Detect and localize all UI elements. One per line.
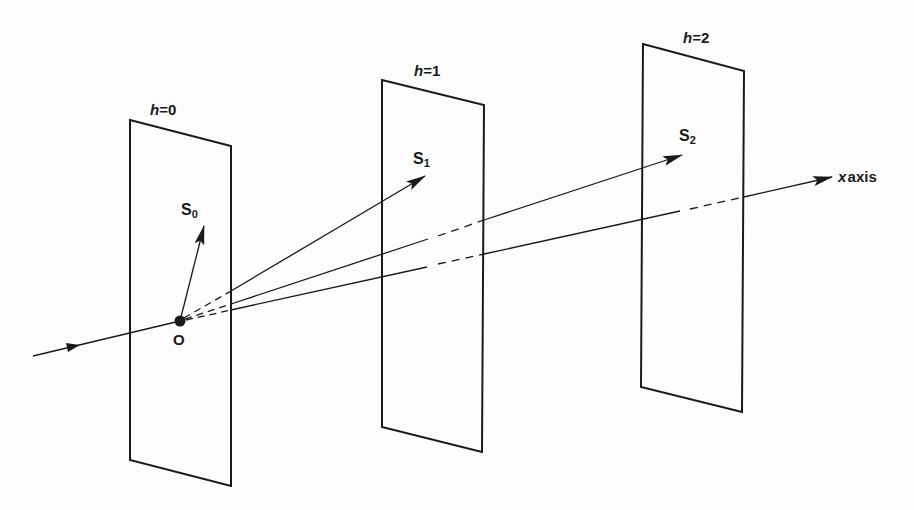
origin-label: O	[173, 331, 185, 348]
x-axis-hidden-1	[438, 254, 484, 264]
plane-eq: =	[423, 62, 432, 79]
plane-label-h0: h=0	[150, 101, 176, 118]
plane-var: h	[150, 101, 159, 118]
plane-value: 1	[432, 62, 440, 79]
vector-base: S	[413, 150, 424, 167]
plane-h0	[130, 120, 231, 486]
x-axis-hidden-2	[690, 197, 744, 209]
vector-s2-a	[231, 239, 428, 304]
vector-s2	[484, 155, 682, 220]
incoming-ray	[33, 321, 180, 356]
plane-var: h	[414, 62, 423, 79]
plane-label-h1: h=1	[414, 62, 440, 79]
axis-word: axis	[848, 168, 877, 185]
plane-value: 2	[701, 29, 709, 46]
plane-h1	[382, 80, 484, 452]
x-axis-label: x axis	[838, 168, 877, 185]
vector-s0	[180, 226, 204, 321]
plane-h2	[641, 44, 744, 412]
vector-label-s1: S1	[413, 150, 430, 169]
vector-label-s0: S0	[181, 201, 198, 220]
vector-base: S	[181, 201, 192, 218]
plane-value: 0	[168, 101, 176, 118]
vector-s2-hidden-1	[438, 220, 484, 236]
plane-eq: =	[159, 101, 168, 118]
vector-label-s2: S2	[679, 127, 696, 146]
vector-subscript: 1	[424, 157, 430, 169]
origin-point	[175, 316, 186, 327]
plane-eq: =	[692, 29, 701, 46]
x-axis-b	[484, 211, 680, 254]
vector-subscript: 0	[192, 208, 198, 220]
vector-s1-hidden	[184, 291, 231, 318]
incoming-ray-arrow-icon	[66, 343, 80, 352]
plane-var: h	[683, 29, 692, 46]
vector-base: S	[679, 127, 690, 144]
x-axis	[744, 177, 832, 197]
vector-subscript: 2	[690, 134, 696, 146]
axis-var: x	[838, 168, 846, 185]
plane-label-h2: h=2	[683, 29, 709, 46]
diagram-canvas	[0, 0, 914, 510]
